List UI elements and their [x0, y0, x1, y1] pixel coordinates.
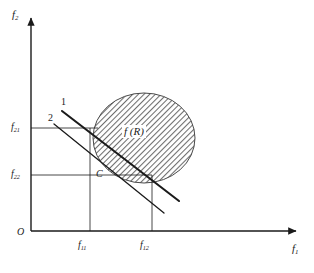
- x-tick-f11-sub: 11: [81, 244, 86, 251]
- y-tick-f22: f22: [11, 169, 20, 179]
- x-tick-f12-sub: 12: [143, 244, 149, 251]
- x-axis-label-sub: 1: [295, 248, 298, 255]
- level-line-1-label: 1: [61, 97, 66, 107]
- y-tick-f21-sub: 21: [14, 126, 20, 133]
- x-tick-f12: f12: [140, 240, 149, 250]
- x-tick-f11: f11: [78, 240, 86, 250]
- region-fr-label: f (R): [122, 125, 146, 138]
- diagram-svg: [0, 0, 314, 273]
- y-axis-label: f2: [12, 9, 18, 20]
- figure-canvas: f2 f1 f21 f22 f11 f12 O 1 2 C f (R): [0, 0, 314, 273]
- origin-label: O: [17, 227, 24, 237]
- point-c-label: C: [96, 169, 103, 179]
- y-axis-label-sub: 2: [15, 14, 18, 21]
- region-fr-ellipse: [93, 93, 195, 183]
- y-tick-f22-sub: 22: [14, 173, 20, 180]
- level-line-2-label: 2: [48, 113, 53, 123]
- y-tick-f21: f21: [11, 122, 20, 132]
- x-axis-label: f1: [292, 243, 298, 254]
